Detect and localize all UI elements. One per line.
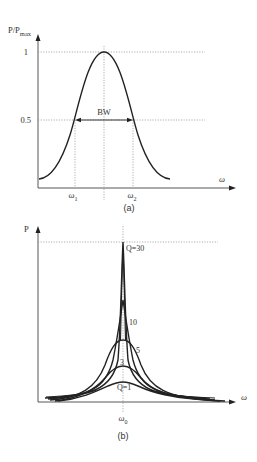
panel-a: P/Pmax 1 0.5 BW ω ω1 ω2 (a) — [8, 25, 236, 213]
panel-b-label-q10: 10 — [129, 318, 137, 327]
panel-a-x-label: ω — [219, 174, 225, 184]
panel-a-bw-right-arrow-icon — [127, 118, 133, 122]
panel-b-label-q1: Q=1 — [117, 383, 131, 392]
panel-a-w1-label: ω1 — [68, 190, 77, 202]
panel-b-x-arrow-icon — [229, 400, 236, 405]
panel-a-caption: (a) — [124, 203, 135, 213]
panel-b-caption: (b) — [118, 431, 129, 441]
panel-a-y-label: P/Pmax — [8, 25, 32, 37]
panel-b-y-arrow-icon — [36, 226, 41, 233]
panel-a-bw-label: BW — [97, 107, 111, 117]
panel-b-label-q30: Q=30 — [126, 244, 144, 253]
panel-b-w0-label: ω0 — [118, 413, 127, 425]
panel-a-y-arrow-icon — [36, 34, 41, 41]
panel-b: P Q=30 10 5 3 Q=1 ω ω0 (b) — [24, 224, 247, 441]
panel-b-label-q3: 3 — [120, 358, 124, 367]
panel-b-curve-q30-inner — [121, 250, 126, 340]
resonance-figure: P/Pmax 1 0.5 BW ω ω1 ω2 (a) — [0, 0, 257, 462]
panel-a-bw-left-arrow-icon — [75, 118, 81, 122]
panel-a-ytick-1: 1 — [24, 47, 28, 57]
panel-b-y-label: P — [24, 224, 29, 234]
panel-b-label-q5: 5 — [136, 346, 140, 355]
panel-a-ytick-0.5: 0.5 — [20, 115, 31, 125]
panel-a-x-arrow-icon — [229, 186, 236, 191]
panel-b-x-label: ω — [241, 392, 247, 402]
panel-a-w2-label: ω2 — [127, 190, 136, 202]
